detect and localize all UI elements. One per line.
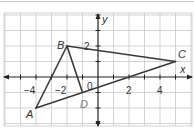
point-label-c: C (178, 48, 186, 60)
point-label-d: D (80, 98, 88, 110)
y-tick-2: 2 (84, 41, 90, 52)
origin-label: 0 (87, 81, 93, 92)
coordinate-plane: x y 0 −4 −2 2 4 2 A B C D (0, 0, 194, 128)
segment-bd (67, 46, 83, 93)
x-tick-neg2: −2 (55, 85, 67, 96)
point-label-a: A (25, 108, 33, 120)
x-tick-2: 2 (126, 85, 132, 96)
point-label-b: B (57, 39, 64, 51)
x-tick-4: 4 (157, 85, 163, 96)
y-axis-arrow-up-icon (96, 13, 101, 19)
x-axis-label: x (179, 63, 186, 75)
x-tick-neg4: −4 (24, 85, 36, 96)
